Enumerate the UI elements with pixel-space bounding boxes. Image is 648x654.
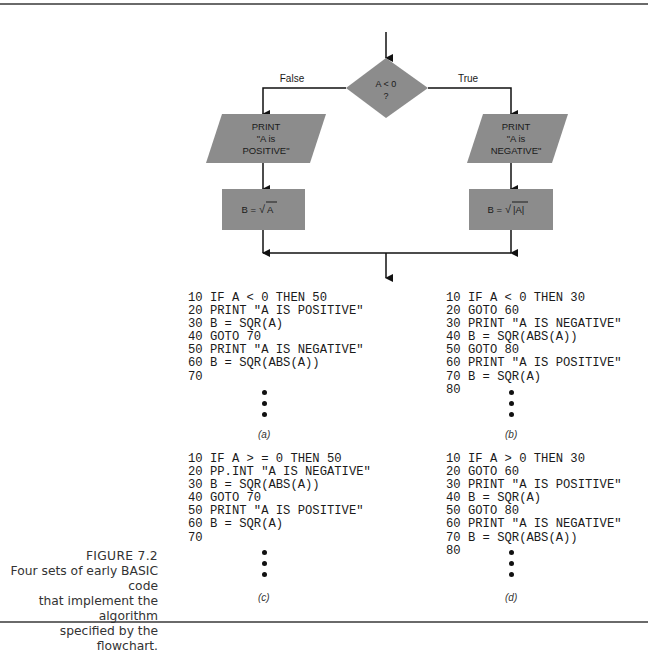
- decision-text-line2: ?: [383, 91, 388, 101]
- code-line: 80: [446, 545, 622, 558]
- label-d: (d): [505, 592, 517, 603]
- true-branch-line: [428, 88, 511, 114]
- right-assign-radical: √: [505, 203, 512, 215]
- right-print-line2: "A is: [507, 133, 526, 144]
- left-assign-lhs: B =: [241, 204, 256, 215]
- code-line: 60 PRINT "A IS POSITIVE": [446, 357, 622, 370]
- false-branch-line: [263, 88, 346, 114]
- right-assign-lhs: B =: [487, 204, 502, 215]
- code-line: 70: [188, 532, 371, 545]
- code-line: 70: [188, 371, 364, 384]
- code-block-d: 10 IF A > 0 THEN 3020 GOTO 6030 PRINT "A…: [446, 453, 622, 558]
- left-print-line3: POSITIVE": [242, 145, 289, 156]
- ellipsis-dots-a: [262, 390, 268, 423]
- label-a: (a): [258, 429, 270, 440]
- caption-line-2: that implement the algorithm: [0, 594, 158, 624]
- false-label: False: [280, 73, 305, 84]
- right-print-line3: NEGATIVE": [491, 145, 542, 156]
- ellipsis-dots-d: [509, 550, 515, 583]
- left-assign-radicand: A: [267, 204, 274, 215]
- code-line: 80: [446, 384, 622, 397]
- left-print-line2: "A is: [257, 133, 276, 144]
- label-c: (c): [258, 592, 270, 603]
- code-line: 60 PRINT "A IS NEGATIVE": [446, 518, 622, 531]
- figure-number: FIGURE 7.2: [0, 549, 158, 564]
- ellipsis-dots-b: [509, 390, 515, 423]
- decision-text-line1: A < 0: [376, 79, 397, 89]
- caption-line-3: specified by the flowchart.: [0, 624, 158, 654]
- ellipsis-dots-c: [262, 550, 268, 583]
- label-b: (b): [505, 429, 517, 440]
- code-block-a: 10 IF A < 0 THEN 5020 PRINT "A IS POSITI…: [188, 292, 364, 384]
- code-line: 70 B = SQR(ABS(A)): [446, 532, 622, 545]
- right-assign-radicand: |A|: [513, 204, 524, 215]
- code-line: 60 B = SQR(A): [188, 518, 371, 531]
- true-label: True: [458, 73, 479, 84]
- caption-line-1: Four sets of early BASIC code: [0, 564, 158, 594]
- code-line: 60 B = SQR(ABS(A)): [188, 357, 364, 370]
- figure-caption: FIGURE 7.2 Four sets of early BASIC code…: [0, 549, 158, 654]
- left-assign-radical: √: [259, 203, 266, 215]
- code-block-b: 10 IF A < 0 THEN 3020 GOTO 6030 PRINT "A…: [446, 292, 622, 397]
- right-print-line1: PRINT: [502, 121, 531, 132]
- code-block-c: 10 IF A > = 0 THEN 5020 PP.INT "A IS NEG…: [188, 453, 371, 545]
- code-line: 70 B = SQR(A): [446, 371, 622, 384]
- left-print-line1: PRINT: [252, 121, 281, 132]
- flowchart: A < 0 ? False True PRINT "A is POSITIVE"…: [0, 0, 648, 290]
